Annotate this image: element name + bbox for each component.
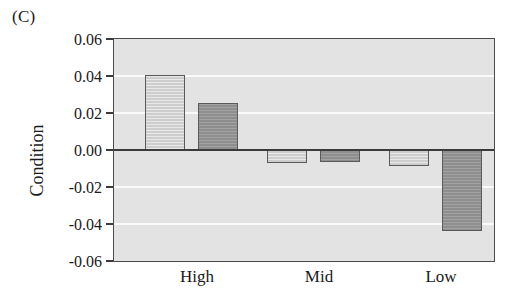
bar-high-series-2 <box>198 103 238 150</box>
bar-low-series-1 <box>389 149 429 166</box>
gridline <box>114 186 494 188</box>
y-tick-label: 0.04 <box>18 69 102 85</box>
y-tick-label: 0.00 <box>18 143 102 159</box>
x-tick-label-high: High <box>152 268 242 285</box>
plot-area <box>113 38 495 262</box>
y-tick-label: -0.06 <box>18 254 102 270</box>
zero-line <box>114 149 494 151</box>
panel-label: (C) <box>12 8 36 25</box>
y-tick-label: 0.02 <box>18 106 102 122</box>
bar-mid-series-1 <box>267 149 307 163</box>
y-tick-label: -0.04 <box>18 217 102 233</box>
bar-low-series-2 <box>442 149 482 231</box>
figure-panel-c: (C) Condition 0.06 0.04 0.02 0.00 -0.02 … <box>0 0 516 307</box>
y-tick-label: 0.06 <box>18 32 102 48</box>
gridline <box>114 223 494 225</box>
x-tick-label-mid: Mid <box>274 268 364 285</box>
bar-high-series-1 <box>145 75 185 150</box>
y-tick-label: -0.02 <box>18 180 102 196</box>
x-tick-label-low: Low <box>396 268 486 285</box>
